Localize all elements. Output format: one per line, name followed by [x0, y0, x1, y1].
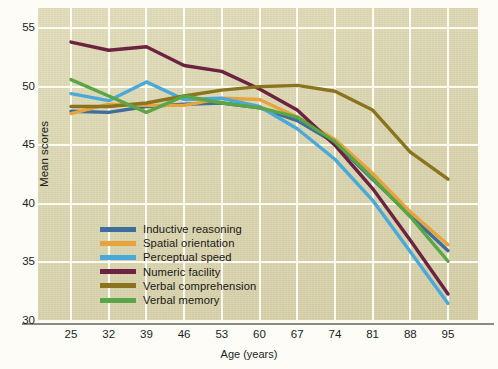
legend-item: Numeric facility — [100, 265, 256, 279]
legend-color-swatch — [100, 241, 136, 246]
legend-label: Inductive reasoning — [143, 223, 242, 235]
legend-label: Numeric facility — [143, 266, 220, 278]
y-axis-tick-label: 45 — [5, 138, 35, 150]
legend-color-swatch — [100, 298, 136, 303]
legend-color-swatch — [100, 227, 136, 232]
x-axis-tick-label: 60 — [240, 328, 280, 340]
x-axis-label: Age (years) — [0, 348, 498, 360]
legend-label: Spatial orientation — [143, 237, 234, 249]
y-axis-tick-label: 50 — [5, 80, 35, 92]
x-axis-tick-label: 95 — [428, 328, 468, 340]
x-axis-line — [22, 323, 494, 325]
plot-area: Inductive reasoningSpatial orientationPe… — [38, 8, 478, 322]
legend-color-swatch — [100, 283, 136, 288]
x-axis-tick-label: 67 — [277, 328, 317, 340]
x-axis-tick-label: 25 — [51, 328, 91, 340]
legend-item: Perceptual speed — [100, 250, 256, 264]
legend-label: Verbal comprehension — [143, 280, 256, 292]
y-axis-tick-label: 55 — [5, 21, 35, 33]
y-axis-tick-label: 35 — [5, 255, 35, 267]
x-axis-tick-label: 53 — [202, 328, 242, 340]
legend-item: Inductive reasoning — [100, 222, 256, 236]
legend-item: Spatial orientation — [100, 236, 256, 250]
legend-item: Verbal memory — [100, 293, 256, 307]
x-axis-tick-label: 88 — [390, 328, 430, 340]
legend: Inductive reasoningSpatial orientationPe… — [100, 222, 256, 307]
x-axis-tick-label: 81 — [353, 328, 393, 340]
chart-figure: Inductive reasoningSpatial orientationPe… — [0, 0, 498, 369]
y-axis-label: Mean scores — [38, 94, 50, 214]
legend-color-swatch — [100, 255, 136, 260]
x-axis-tick-label: 74 — [315, 328, 355, 340]
legend-label: Verbal memory — [143, 294, 220, 306]
y-axis-tick-label: 40 — [5, 197, 35, 209]
x-axis-tick-label: 39 — [126, 328, 166, 340]
legend-color-swatch — [100, 269, 136, 274]
legend-label: Perceptual speed — [143, 251, 232, 263]
x-axis-tick-label: 32 — [89, 328, 129, 340]
x-axis-tick-label: 46 — [164, 328, 204, 340]
legend-item: Verbal comprehension — [100, 279, 256, 293]
